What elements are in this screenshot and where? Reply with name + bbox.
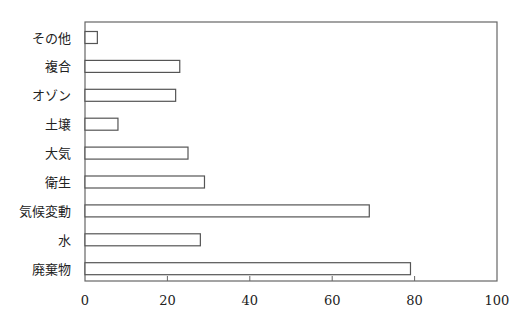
- category-label: オゾン: [32, 88, 71, 103]
- category-label: 衛生: [45, 175, 71, 190]
- bar-chart: その他複合オゾン土壌大気衛生気候変動水廃棄物 020406080100: [0, 0, 520, 321]
- category-label: 土壌: [45, 117, 71, 132]
- category-label: 複合: [45, 59, 71, 74]
- bar: [85, 205, 369, 217]
- category-label: 気候変動: [19, 204, 71, 219]
- bars: [85, 32, 410, 275]
- bar: [85, 176, 204, 188]
- category-label: 大気: [45, 146, 71, 161]
- x-tick-label: 60: [324, 293, 341, 308]
- category-labels: その他複合オゾン土壌大気衛生気候変動水廃棄物: [19, 31, 71, 277]
- bar: [85, 234, 200, 246]
- bar: [85, 263, 410, 275]
- bar: [85, 89, 176, 101]
- x-tick-label: 100: [485, 293, 510, 308]
- x-tick-label: 0: [81, 293, 89, 308]
- bar: [85, 118, 118, 130]
- x-tick-label: 20: [159, 293, 176, 308]
- category-label: 廃棄物: [32, 262, 71, 277]
- x-tick-label: 40: [242, 293, 259, 308]
- bar: [85, 147, 188, 159]
- category-label: その他: [32, 31, 71, 46]
- category-label: 水: [58, 233, 71, 248]
- bar: [85, 60, 180, 72]
- x-tick-label: 80: [406, 293, 423, 308]
- bar: [85, 32, 97, 44]
